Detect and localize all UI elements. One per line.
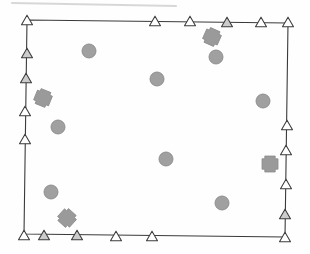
cross-marker [262,156,278,172]
circle-marker [256,94,270,108]
triangle-marker [185,16,196,26]
circle-marker [215,196,229,210]
triangle-marker [19,230,30,240]
triangle-marker [22,48,33,58]
diagram-canvas [0,0,310,254]
circle-marker [209,50,223,64]
cross-marker [33,88,54,109]
triangle-marker [283,17,294,27]
circle-marker [82,44,96,58]
circle-marker-layer [44,44,270,210]
triangle-marker [111,231,122,241]
triangle-marker [280,209,291,219]
triangle-marker [39,230,50,240]
triangle-marker [21,73,32,83]
circle-marker [51,120,65,134]
cross-marker [56,207,79,230]
triangle-marker [256,17,267,27]
circle-marker [159,152,173,166]
cross-marker-layer [33,26,278,229]
cross-marker [201,26,222,47]
triangle-marker [20,106,31,116]
triangle-marker [281,145,292,155]
scan-artifact-layer [12,3,176,6]
triangle-marker [281,179,292,189]
triangle-marker [20,134,31,144]
survey-plot-diagram [0,0,310,254]
circle-marker [150,72,164,86]
triangle-marker [282,120,293,130]
circle-marker [44,185,58,199]
top-edge-scan-streak [12,3,176,6]
